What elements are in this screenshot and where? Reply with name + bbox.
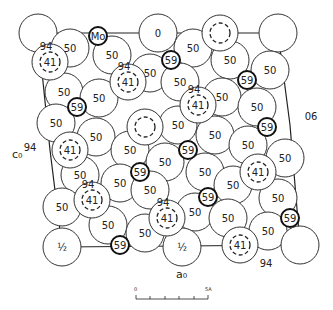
atom-label: 50	[93, 93, 106, 104]
atom-label: 59	[165, 55, 178, 66]
atom-label: 50	[209, 130, 222, 141]
atom-with-dashed-site	[202, 15, 238, 51]
atom-label: 41	[161, 213, 174, 224]
atom-label: 50	[139, 228, 152, 239]
atom-label: 50	[279, 153, 292, 164]
atom-label: 50	[50, 118, 63, 129]
atom-label: 50	[251, 102, 264, 113]
atom-label: ½	[57, 242, 67, 253]
c-axis-label: c₀	[12, 148, 23, 161]
atom-label: 0	[155, 28, 161, 39]
atom-label: 50	[90, 132, 103, 143]
height-annotation: 94	[82, 179, 95, 190]
atom-label: 41	[86, 195, 99, 206]
atom-label: 41	[234, 240, 247, 251]
atom-label: 50	[102, 220, 115, 231]
atom-label: 41	[192, 100, 205, 111]
atom-label: 50	[114, 178, 127, 189]
atom-label: 50	[199, 167, 212, 178]
atom-label: 59	[114, 240, 127, 251]
atom-label: 50	[222, 213, 235, 224]
atom-label: 59	[241, 75, 254, 86]
atom-label: 59	[261, 122, 274, 133]
scale-end-label: 5A	[205, 286, 212, 292]
atom-label: 50	[272, 193, 285, 204]
atom-label: 41	[252, 167, 265, 178]
height-annotation: 94	[188, 84, 201, 95]
atom-label: 50	[144, 185, 157, 196]
atom-label: 59	[182, 145, 195, 156]
atom-label: 50	[264, 65, 277, 76]
atom-label: 41	[64, 145, 77, 156]
edge-label: 94	[24, 142, 37, 153]
atom-label: 59	[202, 192, 215, 203]
height-annotation: 94	[40, 41, 53, 52]
atom-label: 50	[56, 202, 69, 213]
a-axis-label: a₀	[176, 268, 188, 281]
large-atom	[281, 226, 319, 264]
atom-label: ½	[177, 242, 187, 253]
atom-label: 50	[64, 43, 77, 54]
edge-label: 94	[260, 258, 273, 269]
atom-with-dashed-site	[127, 109, 163, 145]
atom-label: 50	[159, 157, 172, 168]
atom-label: Mo	[91, 31, 106, 42]
scale-start-label: 0	[134, 286, 137, 292]
atom-label: 50	[227, 180, 240, 191]
atom-label: 59	[134, 167, 147, 178]
atom-label: 50	[58, 87, 71, 98]
atom-label: 50	[174, 77, 187, 88]
scale-bar	[136, 295, 208, 299]
atom-label: 59	[71, 102, 84, 113]
large-atom	[259, 14, 297, 52]
atom-label: 41	[44, 57, 57, 68]
atom-label: 50	[216, 92, 229, 103]
atom-label: 50	[242, 140, 255, 151]
height-annotation: 94	[157, 197, 170, 208]
edge-label: 06	[305, 111, 318, 122]
atom-label: 50	[262, 226, 275, 237]
atom-label: 50	[187, 43, 200, 54]
atom-label: 59	[284, 213, 297, 224]
crystal-structure-diagram: 0505050505050505050505050505050505050505…	[0, 0, 333, 310]
atom-label: 41	[122, 77, 135, 88]
atom-label: 50	[106, 50, 119, 61]
atom-label: 50	[224, 55, 237, 66]
atom-label: 50	[172, 120, 185, 131]
atom-label: 50	[124, 145, 137, 156]
height-annotation: 94	[118, 61, 131, 72]
atom-label: 50	[189, 207, 202, 218]
